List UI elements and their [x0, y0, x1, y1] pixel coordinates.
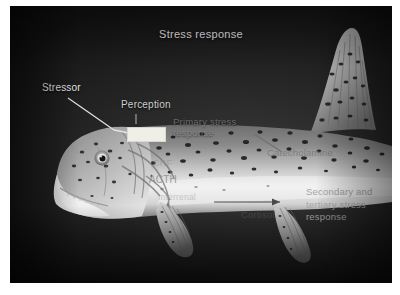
label-secondary-tertiary-stress-response: Secondary and tertiary stress response [306, 186, 373, 224]
trout-illustration [10, 6, 392, 283]
dorsal-fin [310, 28, 376, 134]
label-acth: ACTH [149, 174, 177, 185]
stress-response-figure: Stress response Stressor Perception Prim… [0, 0, 400, 295]
label-cortisol: Cortisol [241, 209, 275, 220]
label-primary-stress-response: Primary stress response [173, 116, 237, 138]
label-stressor: Stressor [42, 82, 81, 93]
perception-callout-box [127, 127, 166, 142]
figure-plate: Stress response Stressor Perception Prim… [10, 6, 392, 283]
label-interrenal: Interrenal [158, 192, 196, 202]
label-perception: Perception [121, 99, 171, 110]
figure-title: Stress response [10, 28, 392, 40]
label-catecholamine: Catecholamine [267, 147, 333, 158]
label-crf: CRF [153, 158, 172, 168]
